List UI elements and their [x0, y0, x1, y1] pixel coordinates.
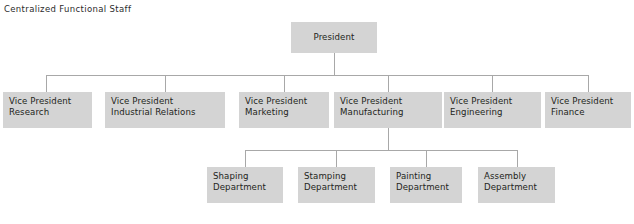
node-shaping-department[interactable]: Shaping Department — [207, 167, 283, 203]
connector-drop-vp-finance — [588, 75, 589, 92]
connector-drop-assembly-department — [517, 150, 518, 167]
node-vp-engineering[interactable]: Vice President Engineering — [444, 92, 541, 128]
connector-drop-vp-industrial-relations — [165, 75, 166, 92]
node-vp-research[interactable]: Vice President Research — [3, 92, 92, 128]
node-painting-department[interactable]: Painting Department — [390, 167, 462, 203]
connector-president-drop — [334, 53, 335, 75]
connector-drop-vp-marketing — [284, 75, 285, 92]
node-vp-manufacturing[interactable]: Vice President Manufacturing — [334, 92, 442, 128]
connector-level1-bus — [46, 75, 588, 76]
org-chart: Centralized Functional Staff President V… — [0, 0, 634, 224]
connector-drop-shaping-department — [245, 150, 246, 167]
chart-caption: Centralized Functional Staff — [4, 4, 131, 14]
node-vp-industrial-relations[interactable]: Vice President Industrial Relations — [105, 92, 225, 128]
node-president[interactable]: President — [291, 22, 377, 53]
connector-drop-vp-research — [46, 75, 47, 92]
node-vp-finance[interactable]: Vice President Finance — [545, 92, 631, 128]
connector-drop-vp-engineering — [492, 75, 493, 92]
connector-manufacturing-drop — [388, 128, 389, 150]
node-stamping-department[interactable]: Stamping Department — [298, 167, 375, 203]
connector-drop-stamping-department — [336, 150, 337, 167]
connector-drop-vp-manufacturing — [388, 75, 389, 92]
connector-drop-painting-department — [426, 150, 427, 167]
connector-level2-bus — [245, 150, 517, 151]
node-assembly-department[interactable]: Assembly Department — [478, 167, 555, 203]
node-vp-marketing[interactable]: Vice President Marketing — [239, 92, 329, 128]
